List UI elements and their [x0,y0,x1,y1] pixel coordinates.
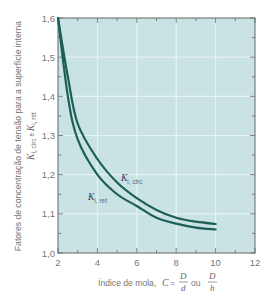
svg-text:12: 12 [250,257,261,268]
svg-text:1,4: 1,4 [42,91,55,102]
svg-text:1,1: 1,1 [42,208,55,219]
y-tick-labels: 1,01,11,21,31,41,51,6 [42,13,55,259]
x-tick-labels: 24681012 [55,257,260,268]
svg-text:D: D [208,271,216,281]
svg-text:h: h [210,283,215,293]
svg-text:1,2: 1,2 [42,169,55,180]
svg-text:ou: ou [191,278,201,288]
svg-text:10: 10 [210,257,221,268]
svg-text:Índice de mola,: Índice de mola, [98,278,156,288]
x-axis-title: Índice de mola, C = D d ou D h [98,271,217,293]
svg-text:1,0: 1,0 [42,248,55,259]
svg-text:1,5: 1,5 [42,52,55,63]
svg-text:Fatores de concentração de ten: Fatores de concentração de tensão para a… [13,21,23,251]
svg-text:=: = [170,278,175,288]
chart: 24681012 1,01,11,21,31,41,51,6 Ki, circ … [0,0,271,300]
svg-text:1,6: 1,6 [42,13,55,24]
svg-text:4: 4 [95,257,100,268]
y-axis-title: Fatores de concentração de tensão para a… [13,21,37,251]
svg-text:1,3: 1,3 [42,130,55,141]
svg-text:Ki, circ e Ki, ret: Ki, circ e Ki, ret [26,112,37,161]
svg-text:C: C [162,277,169,288]
svg-text:8: 8 [174,257,179,268]
svg-text:6: 6 [134,257,139,268]
svg-text:d: d [181,283,186,293]
svg-text:D: D [179,271,187,281]
svg-text:2: 2 [55,257,60,268]
